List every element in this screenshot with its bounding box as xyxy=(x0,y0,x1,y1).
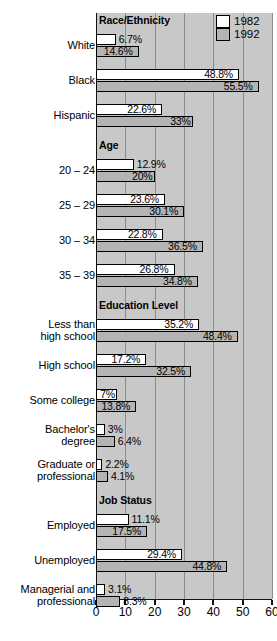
bar-value-1982: 6.7% xyxy=(117,34,142,45)
bar-value-1992: 34.8% xyxy=(163,276,194,287)
bar-value-1992: 33% xyxy=(170,116,192,127)
bar-value-1992: 17.5% xyxy=(112,526,143,537)
category-label: 25 – 29 xyxy=(3,199,95,212)
bar-value-1982: 17.2% xyxy=(111,354,142,365)
bar-value-1992: 8.3% xyxy=(121,596,146,607)
bar-value-1992: 36.5% xyxy=(168,241,199,252)
category-label: Employed xyxy=(3,519,95,532)
bar-value-1982: 23.6% xyxy=(130,194,161,205)
bar-1992 xyxy=(96,436,115,447)
category-label: Hispanic xyxy=(3,109,95,122)
category-label: Some college xyxy=(3,394,95,407)
bar-value-1992: 6.4% xyxy=(116,436,141,447)
legend-swatch-1992 xyxy=(216,28,230,41)
bar-value-1992: 14.6% xyxy=(104,46,135,57)
bar-value-1982: 2.2% xyxy=(103,459,128,470)
category-label: White xyxy=(3,39,95,52)
section-title-0: Race/Ethnicity xyxy=(99,14,170,26)
category-label: Unemployed xyxy=(3,554,95,567)
bar-value-1992: 44.8% xyxy=(192,561,223,572)
category-label: 20 – 24 xyxy=(3,164,95,177)
category-label: Less than high school xyxy=(3,318,95,343)
x-tick-label-10: 10 xyxy=(110,605,140,619)
x-tick-label-20: 20 xyxy=(140,605,170,619)
chart-legend: 1982 1992 xyxy=(216,15,274,45)
x-tick-label-30: 30 xyxy=(169,605,199,619)
bar-1982 xyxy=(96,34,116,45)
section-title-3: Job Status xyxy=(99,494,152,506)
bar-value-1982: 3% xyxy=(106,424,123,435)
x-tick-label-60: 60 xyxy=(257,605,277,619)
bar-value-1982: 3.1% xyxy=(106,584,131,595)
category-label: 35 – 39 xyxy=(3,269,95,282)
category-label: High school xyxy=(3,359,95,372)
bar-1982 xyxy=(96,159,134,170)
x-tick-label-40: 40 xyxy=(198,605,228,619)
gridline-50 xyxy=(243,13,244,599)
bar-value-1992: 13.8% xyxy=(101,401,132,412)
legend-label-1982: 1982 xyxy=(234,15,260,28)
legend-label-1992: 1992 xyxy=(234,28,260,41)
category-label: Graduate or professional xyxy=(3,458,95,483)
category-label: Managerial and professional xyxy=(3,583,95,608)
gridline-30 xyxy=(184,13,185,599)
bar-value-1982: 35.2% xyxy=(164,319,195,330)
bar-value-1992: 4.1% xyxy=(109,471,134,482)
gridline-40 xyxy=(213,13,214,599)
section-title-2: Education Level xyxy=(99,299,178,311)
bar-value-1992: 32.5% xyxy=(156,366,187,377)
bar-value-1992: 48.4% xyxy=(203,331,234,342)
bar-1982 xyxy=(96,459,102,470)
bar-value-1982: 12.9% xyxy=(135,159,166,170)
gridline-60 xyxy=(272,13,273,599)
bar-value-1982: 26.8% xyxy=(140,264,171,275)
legend-swatch-1982 xyxy=(216,15,230,28)
bar-1982 xyxy=(96,424,105,435)
bar-value-1992: 20% xyxy=(132,171,154,182)
bar-1982 xyxy=(96,514,129,525)
bar-value-1982: 29.4% xyxy=(147,549,178,560)
bar-1982 xyxy=(96,584,105,595)
bar-value-1982: 48.8% xyxy=(204,69,235,80)
bar-value-1982: 22.6% xyxy=(127,104,158,115)
bar-value-1982: 7% xyxy=(100,389,117,400)
bar-value-1982: 22.8% xyxy=(128,229,159,240)
bar-value-1992: 30.1% xyxy=(149,206,180,217)
bar-value-1992: 55.5% xyxy=(224,81,255,92)
x-tick-label-50: 50 xyxy=(228,605,258,619)
bar-1992 xyxy=(96,471,108,482)
category-label: Black xyxy=(3,74,95,87)
category-label: 30 – 34 xyxy=(3,234,95,247)
category-label: Bachelor's degree xyxy=(3,423,95,448)
bar-1992 xyxy=(96,596,120,607)
section-title-1: Age xyxy=(99,139,119,151)
grouped-bar-chart: 1982 1992 0102030405060 Race/Ethnicity6.… xyxy=(0,0,277,641)
bar-value-1982: 11.1% xyxy=(130,514,160,525)
